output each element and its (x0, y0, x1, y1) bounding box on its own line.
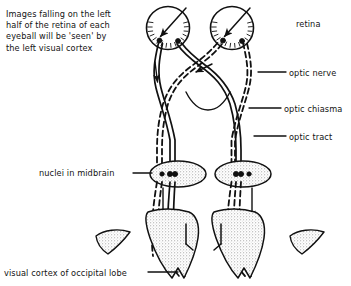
nucleus-right (215, 161, 271, 187)
label-retina: retina (296, 19, 321, 30)
label-optic-tract: optic tract (289, 132, 332, 143)
diagram-canvas: Images falling on the left half of the r… (0, 0, 351, 286)
label-optic-chiasma: optic chiasma (284, 104, 342, 115)
nerve-origin-left-nasal (176, 39, 181, 44)
pathway-right-nasal (157, 43, 222, 168)
label-nuclei-in-midbrain: nuclei in midbrain (39, 168, 114, 179)
flow-arrow-left-nerve (155, 62, 158, 82)
occipital-wing-left (96, 230, 130, 254)
nerve-origin-left-temporal (157, 38, 162, 43)
nerve-origin-right-temporal (221, 38, 226, 43)
label-optic-nerve: optic nerve (289, 68, 336, 79)
occipital-wing-right (290, 230, 324, 254)
chiasma-loop (186, 92, 230, 110)
label-visual-cortex: visual cortex of occipital lobe (4, 268, 127, 279)
nucleus-left (150, 161, 206, 187)
eyeball-left (147, 7, 190, 50)
callout-text: Images falling on the left half of the r… (6, 9, 141, 54)
occipital-lobe-right (212, 209, 265, 278)
occipital-lobe-left (146, 209, 199, 278)
